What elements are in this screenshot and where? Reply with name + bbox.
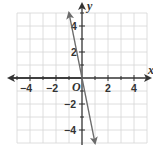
y-tick-label-neg2: −2 (64, 98, 76, 110)
x-tick-label-neg4: −4 (20, 82, 32, 94)
x-tick-label-neg2: −2 (46, 82, 58, 94)
y-axis-label: y (85, 0, 93, 13)
y-tick-label-neg4: −4 (64, 124, 76, 136)
x-tick-label-4: 4 (131, 82, 137, 94)
x-tick-label-2: 2 (105, 82, 111, 94)
coordinate-plane: −4 −2 2 4 4 2 −2 −4 O x y (0, 0, 153, 145)
graph-line-lower (82, 78, 95, 143)
origin-label: O (72, 80, 81, 94)
x-axis-label: x (147, 63, 153, 77)
